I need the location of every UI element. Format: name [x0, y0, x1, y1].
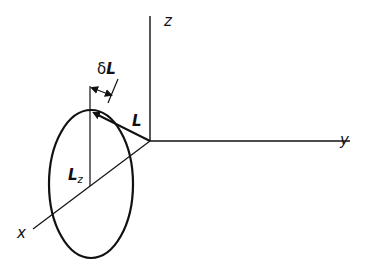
precession-ellipse	[49, 110, 133, 258]
lz-label-sub: z	[77, 174, 84, 185]
delta-symbol: δ	[97, 60, 106, 78]
precession-diagram: z y x L Lz δL	[0, 0, 366, 273]
delta-l-tick	[108, 79, 118, 103]
delta-l-label: δL	[97, 60, 116, 78]
delta-l-arrow	[92, 88, 111, 95]
delta-l-main: L	[106, 60, 116, 78]
l-vector-label: L	[132, 112, 142, 130]
l-vector	[94, 113, 150, 141]
x-axis-label: x	[16, 224, 26, 242]
y-axis-label: y	[339, 131, 350, 149]
z-axis-label: z	[163, 12, 173, 30]
lz-label: Lz	[68, 166, 84, 185]
lz-label-main: L	[68, 166, 78, 184]
